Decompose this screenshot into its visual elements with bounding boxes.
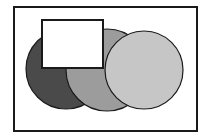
- light-circle: [105, 31, 183, 109]
- venn-diagram: [0, 0, 205, 138]
- white-rectangle: [42, 20, 103, 68]
